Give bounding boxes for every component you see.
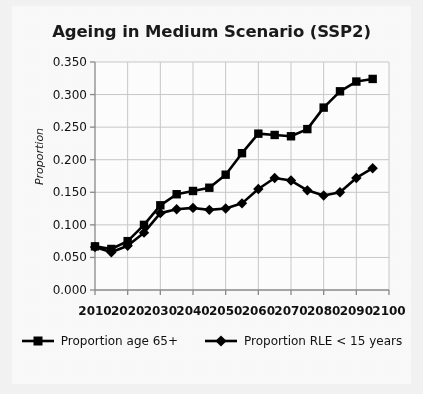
data-point-marker (238, 149, 246, 157)
data-point-marker (270, 131, 278, 139)
chart-legend: Proportion age 65+Proportion RLE < 15 ye… (0, 334, 423, 348)
y-tick-label: 0.150 (35, 185, 87, 199)
data-point-marker (205, 184, 213, 192)
y-tick-label: 0.250 (35, 120, 87, 134)
chart-figure: Ageing in Medium Scenario (SSP2) Proport… (0, 0, 423, 394)
plot-area: 0.0000.0500.1000.1500.2000.2500.3000.350… (0, 0, 423, 334)
legend-label: Proportion RLE < 15 years (244, 334, 402, 348)
y-tick-label: 0.200 (35, 153, 87, 167)
data-point-marker (368, 75, 376, 83)
x-tick-label: 2100 (367, 304, 411, 318)
data-point-marker (352, 77, 360, 85)
y-tick-label: 0.000 (35, 283, 87, 297)
y-tick-label: 0.100 (35, 218, 87, 232)
y-tick-label: 0.350 (35, 55, 87, 69)
legend-item[interactable]: Proportion age 65+ (21, 334, 178, 348)
legend-diamond-marker-icon (204, 334, 238, 348)
data-point-marker (336, 87, 344, 95)
legend-square-marker-icon (21, 334, 55, 348)
plot-background (95, 62, 389, 290)
data-point-marker (319, 103, 327, 111)
data-point-marker (254, 129, 262, 137)
data-point-marker (221, 170, 229, 178)
y-tick-label: 0.300 (35, 88, 87, 102)
data-point-marker (189, 187, 197, 195)
y-tick-label: 0.050 (35, 250, 87, 264)
data-point-marker (303, 125, 311, 133)
legend-item[interactable]: Proportion RLE < 15 years (204, 334, 402, 348)
legend-label: Proportion age 65+ (61, 334, 178, 348)
data-point-marker (172, 190, 180, 198)
data-point-marker (287, 132, 295, 140)
